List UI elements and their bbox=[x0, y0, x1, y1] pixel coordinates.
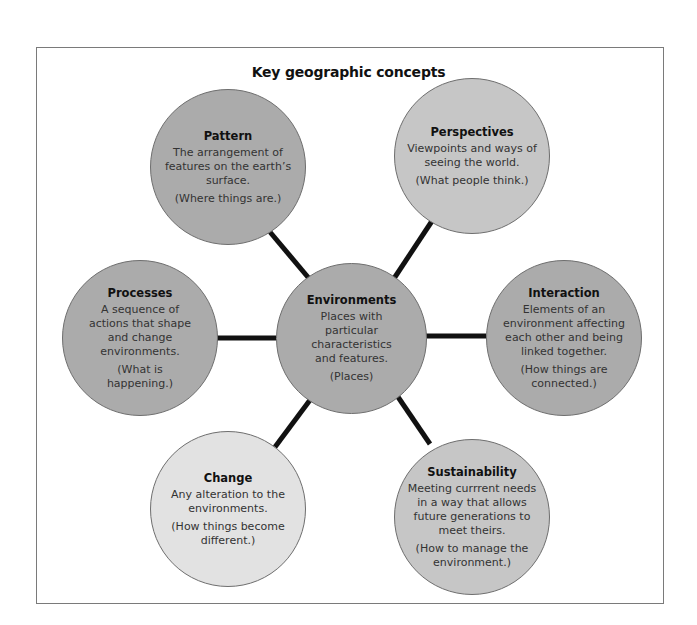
concept-interaction: Interaction Elements of an environment a… bbox=[486, 260, 642, 416]
concept-note: (How things are connected.) bbox=[514, 363, 614, 391]
concept-perspectives: Perspectives Viewpoints and ways of seei… bbox=[394, 78, 550, 234]
concept-description: Elements of an environment affecting eac… bbox=[496, 303, 632, 359]
concept-note: (What is happening.) bbox=[100, 363, 180, 391]
concept-sustainability: Sustainability Meeting currrent needs in… bbox=[394, 439, 550, 595]
connector-pattern bbox=[270, 232, 312, 282]
concept-name: Environments bbox=[307, 293, 397, 307]
concept-note: (Where things are.) bbox=[163, 192, 293, 206]
concept-name: Perspectives bbox=[430, 125, 513, 139]
concept-pattern: Pattern The arrangement of features on t… bbox=[150, 89, 306, 245]
concept-description: Any alteration to the environments. bbox=[165, 488, 291, 516]
concept-description: The arrangement of features on the earth… bbox=[161, 146, 295, 188]
concept-environments: Environments Places with particular char… bbox=[276, 263, 427, 414]
concept-change: Change Any alteration to the environment… bbox=[150, 431, 306, 587]
connector-sustainability bbox=[396, 394, 430, 444]
concept-name: Processes bbox=[108, 286, 173, 300]
concept-description: A sequence of actions that shape and cha… bbox=[87, 303, 193, 359]
concept-name: Pattern bbox=[204, 129, 253, 143]
concept-note: (Places) bbox=[330, 370, 374, 384]
connector-change bbox=[275, 396, 313, 447]
concept-name: Change bbox=[204, 471, 253, 485]
concept-description: Places with particular characteristics a… bbox=[304, 310, 400, 366]
concept-note: (How things become different.) bbox=[165, 520, 291, 548]
concept-name: Sustainability bbox=[427, 465, 517, 479]
concept-description: Meeting currrent needs in a way that all… bbox=[404, 482, 540, 538]
concept-note: (How to manage the environment.) bbox=[414, 542, 530, 570]
concept-name: Interaction bbox=[528, 286, 600, 300]
concept-description: Viewpoints and ways of seeing the world. bbox=[404, 142, 540, 170]
concept-processes: Processes A sequence of actions that sha… bbox=[62, 260, 218, 416]
concept-note: (What people think.) bbox=[404, 174, 540, 188]
connector-perspectives bbox=[393, 221, 432, 280]
